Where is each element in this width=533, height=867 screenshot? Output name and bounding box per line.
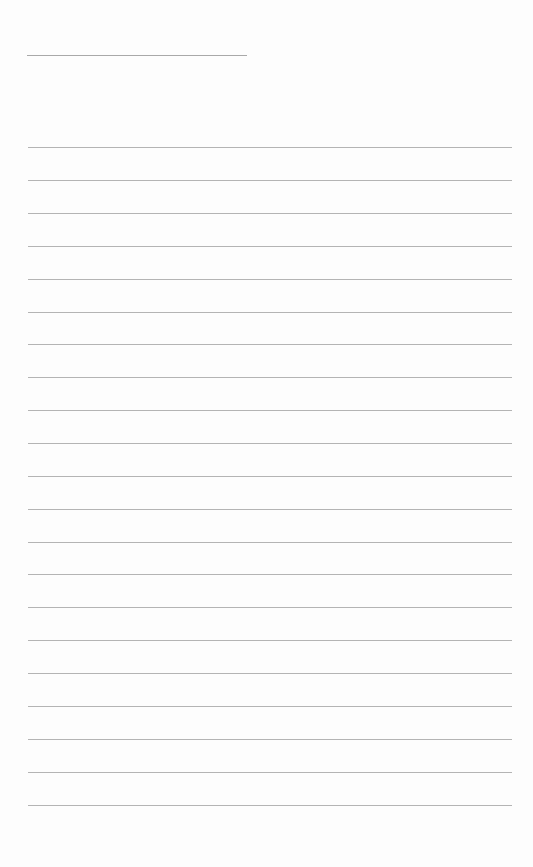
ruled-line: [28, 312, 512, 313]
ruled-line: [28, 246, 512, 247]
ruled-paper-sheet: [0, 0, 533, 867]
ruled-line: [28, 772, 512, 773]
ruled-line: [28, 739, 512, 740]
ruled-line: [28, 180, 512, 181]
ruled-line: [28, 443, 512, 444]
ruled-line: [28, 213, 512, 214]
ruled-line: [28, 805, 512, 806]
ruled-line: [28, 509, 512, 510]
ruled-line: [28, 344, 512, 345]
ruled-line: [28, 410, 512, 411]
ruled-line: [28, 640, 512, 641]
ruled-line: [28, 279, 512, 280]
ruled-line: [28, 574, 512, 575]
ruled-line: [28, 147, 512, 148]
ruled-line: [28, 542, 512, 543]
ruled-line: [28, 706, 512, 707]
ruled-line: [28, 607, 512, 608]
ruled-line: [28, 673, 512, 674]
ruled-line: [28, 377, 512, 378]
ruled-line: [28, 476, 512, 477]
header-rule: [27, 55, 247, 56]
